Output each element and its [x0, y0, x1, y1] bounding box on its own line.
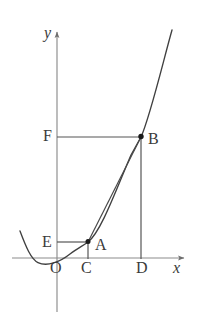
point-a-marker — [86, 239, 91, 244]
x-axis-label: x — [173, 260, 180, 276]
point-d-label: D — [136, 260, 148, 276]
point-f-label: F — [43, 128, 52, 144]
point-e-label: E — [42, 234, 52, 250]
parabola-curve — [20, 30, 172, 264]
point-b-label: B — [148, 131, 159, 147]
point-b-marker — [138, 134, 143, 139]
figure-canvas — [0, 0, 200, 325]
point-c-label: C — [81, 260, 92, 276]
geometry-figure: y x O C D E F A B — [0, 0, 200, 325]
point-a-label: A — [95, 237, 107, 253]
chord-AB — [88, 137, 141, 242]
y-axis-label: y — [44, 25, 51, 41]
origin-label: O — [50, 260, 62, 276]
